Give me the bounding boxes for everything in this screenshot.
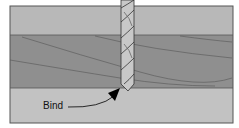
bind-label: Bind (43, 100, 63, 111)
drill-binding-diagram (0, 0, 239, 128)
drill-bit (121, 0, 134, 91)
